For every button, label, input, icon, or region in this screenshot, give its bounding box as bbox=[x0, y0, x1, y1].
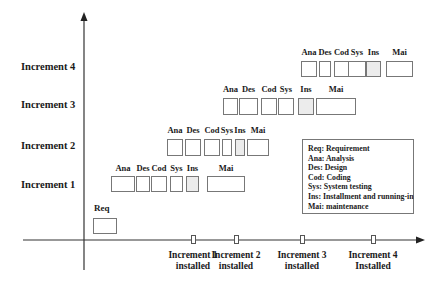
phase-box-sys bbox=[170, 176, 183, 192]
phase-box-cod bbox=[261, 98, 277, 115]
legend-mai: Mai: maintenance bbox=[308, 202, 413, 212]
phase-label-ana: Ana bbox=[115, 163, 130, 173]
requirement-box bbox=[93, 218, 117, 234]
phase-box-mai bbox=[207, 176, 245, 192]
phase-box-des bbox=[185, 139, 201, 156]
phase-label-ins: Ins bbox=[368, 47, 379, 57]
legend-des: Des: Design bbox=[308, 163, 413, 173]
phase-box-mai bbox=[316, 98, 356, 115]
row-label-increment-2: Increment 2 bbox=[21, 140, 75, 151]
phase-box-sys bbox=[222, 139, 232, 156]
milestone-line2: Installed bbox=[348, 261, 397, 272]
phase-box-ana bbox=[223, 98, 238, 115]
phase-label-ins: Ins bbox=[187, 163, 198, 173]
phase-box-sys bbox=[278, 98, 294, 115]
phase-label-cod: Cod bbox=[204, 125, 219, 135]
legend-cod: Cod: Coding bbox=[308, 173, 413, 183]
phase-label-sys: Sys bbox=[221, 125, 233, 135]
legend-ins: Ins: Installment and running-in bbox=[308, 192, 413, 202]
phase-box-ana bbox=[167, 139, 183, 156]
milestone-marker bbox=[191, 235, 196, 244]
phase-label-ana: Ana bbox=[301, 47, 316, 57]
phase-label-cod: Cod bbox=[151, 163, 166, 173]
phase-label-cod: Cod bbox=[334, 47, 349, 57]
phase-box-des bbox=[319, 61, 331, 77]
phase-label-sys: Sys bbox=[351, 47, 363, 57]
phase-box-mai bbox=[247, 139, 269, 156]
phase-label-sys: Sys bbox=[170, 163, 182, 173]
phase-box-des bbox=[136, 176, 150, 192]
phase-box-ana bbox=[301, 61, 317, 77]
legend-sys: Sys: System testing bbox=[308, 182, 413, 192]
arrow-up-icon bbox=[81, 12, 88, 21]
phase-label-ana: Ana bbox=[167, 125, 182, 135]
milestone-label: Increment 3installed bbox=[277, 250, 326, 272]
phase-box-mai bbox=[386, 61, 413, 77]
phase-label-mai: Mai bbox=[329, 84, 344, 94]
milestone-marker bbox=[371, 235, 376, 244]
phase-label-sys: Sys bbox=[280, 84, 292, 94]
legend: Req: Requirement Ana: Analysis Des: Desi… bbox=[302, 139, 414, 214]
phase-label-ins: Ins bbox=[234, 125, 245, 135]
row-label-increment-1: Increment 1 bbox=[21, 179, 75, 190]
phase-label-des: Des bbox=[318, 47, 331, 57]
phase-box-cod bbox=[204, 139, 220, 156]
milestone-line2: installed bbox=[277, 261, 326, 272]
milestone-marker bbox=[234, 235, 239, 244]
row-label-increment-4: Increment 4 bbox=[21, 61, 75, 72]
phase-label-mai: Mai bbox=[392, 47, 407, 57]
milestone-label: Increment 4Installed bbox=[348, 250, 397, 272]
row-label-increment-3: Increment 3 bbox=[21, 99, 75, 110]
milestone-line1: Increment 2 bbox=[211, 250, 260, 261]
phase-label-mai: Mai bbox=[251, 125, 266, 135]
phase-label-mai: Mai bbox=[219, 163, 234, 173]
requirement-label: Req bbox=[94, 203, 110, 213]
arrow-right-icon bbox=[416, 237, 425, 244]
phase-label-cod: Cod bbox=[261, 84, 276, 94]
milestone-marker bbox=[300, 235, 305, 244]
milestone-line2: installed bbox=[211, 261, 260, 272]
milestone-line1: Increment 4 bbox=[348, 250, 397, 261]
phase-label-ana: Ana bbox=[223, 84, 238, 94]
phase-label-des: Des bbox=[136, 163, 149, 173]
phase-label-ins: Ins bbox=[300, 84, 311, 94]
milestone-line2: installed bbox=[168, 261, 217, 272]
milestone-label: Increment 1installed bbox=[168, 250, 217, 272]
phase-label-des: Des bbox=[186, 125, 199, 135]
milestone-line1: Increment 3 bbox=[277, 250, 326, 261]
phase-box-ins bbox=[235, 139, 245, 156]
phase-box-des bbox=[239, 98, 258, 115]
phase-box-ana bbox=[111, 176, 135, 192]
phase-box-ins bbox=[366, 61, 381, 77]
phase-box-ins bbox=[186, 176, 199, 192]
phase-box-ins bbox=[298, 98, 314, 115]
milestone-line1: Increment 1 bbox=[168, 250, 217, 261]
phase-box-sys bbox=[348, 61, 366, 77]
phase-label-des: Des bbox=[242, 84, 255, 94]
phase-box-cod bbox=[151, 176, 167, 192]
milestone-label: Increment 2installed bbox=[211, 250, 260, 272]
legend-req: Req: Requirement bbox=[308, 144, 413, 154]
legend-ana: Ana: Analysis bbox=[308, 154, 413, 164]
phase-box-cod bbox=[334, 61, 349, 77]
